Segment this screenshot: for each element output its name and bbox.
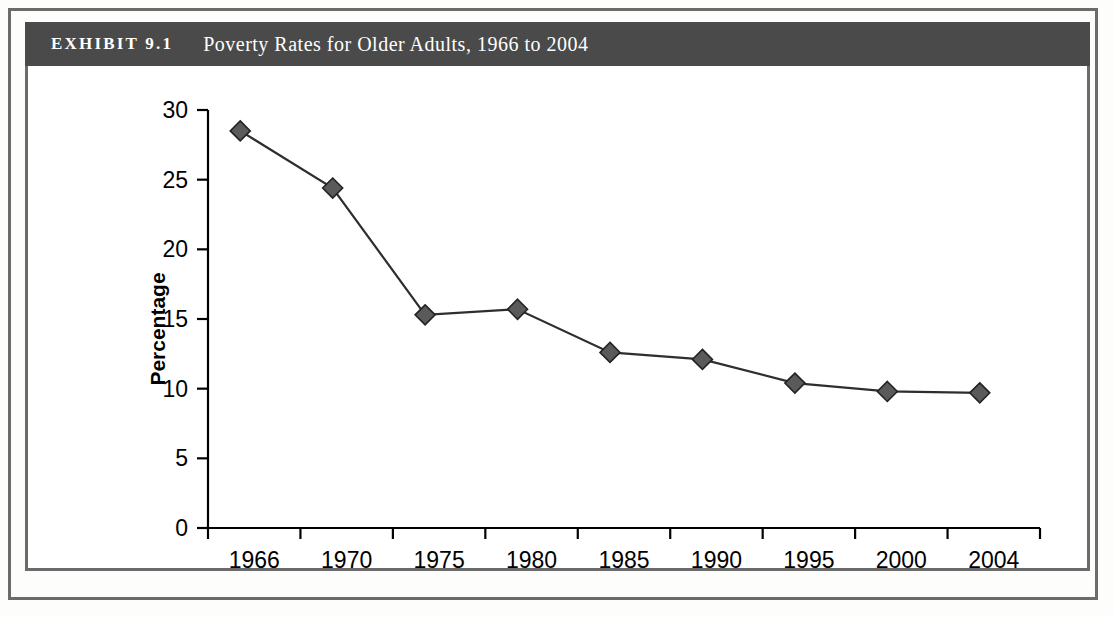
exhibit-header-band: EXHIBIT 9.1 Poverty Rates for Older Adul… [25,22,1090,66]
chart-panel [25,66,1090,571]
exhibit-number-label: EXHIBIT 9.1 [51,34,173,54]
exhibit-title: Poverty Rates for Older Adults, 1966 to … [203,33,588,56]
exhibit-figure: EXHIBIT 9.1 Poverty Rates for Older Adul… [0,0,1114,617]
